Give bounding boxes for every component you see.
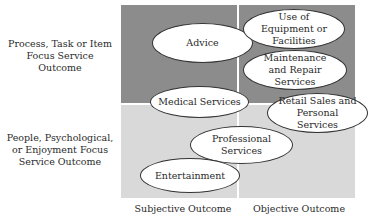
ellipse-maintenance: Maintenance and Repair Services [243, 50, 347, 90]
ellipse-label: Retail Sales and Personal Services [276, 95, 359, 131]
ellipse-label: Medical Services [158, 96, 240, 108]
column-label-subjective: Subjective Outcome [131, 203, 235, 214]
ellipse-label: Advice [186, 37, 218, 49]
ellipse-label: Entertainment [155, 170, 225, 182]
ellipse-use-of-equipment: Use of Equipment or Facilities [243, 9, 345, 49]
ellipse-label: Maintenance and Repair Services [254, 52, 336, 88]
row-label-process-focus: Process, Task or Item Focus Service Outc… [4, 38, 116, 74]
ellipse-retail-sales: Retail Sales and Personal Services [267, 93, 368, 133]
ellipse-entertainment: Entertainment [140, 158, 240, 193]
ellipse-medical-services: Medical Services [150, 86, 249, 118]
row-label-people-focus: People, Psychological, or Enjoyment Focu… [2, 132, 118, 168]
ellipse-label: Use of Equipment or Facilities [256, 11, 332, 47]
ellipse-advice: Advice [152, 23, 253, 63]
column-label-objective: Objective Outcome [247, 203, 351, 214]
ellipse-label: Professional Services [209, 133, 274, 157]
